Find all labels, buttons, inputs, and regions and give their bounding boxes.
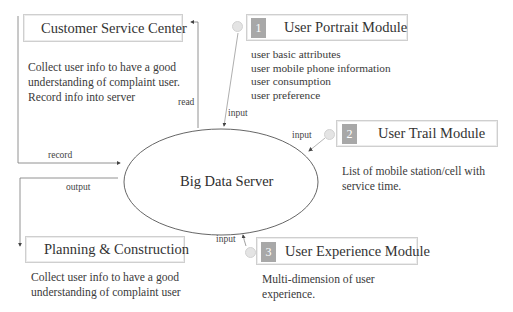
module-3-number-badge: 3: [261, 242, 276, 262]
module-2-number-badge: 2: [342, 124, 357, 144]
user-experience-module-description: Multi-dimension of user experience.: [262, 272, 375, 302]
planning-construction-box: Planning & Construction: [25, 236, 185, 263]
planning-construction-description: Collect user info to have a good underst…: [31, 270, 181, 300]
output-label: output: [66, 182, 90, 192]
user-trail-module-description: List of mobile station/cell with service…: [342, 164, 485, 194]
read-arrow: [191, 22, 198, 128]
input-1-label: input: [228, 108, 248, 118]
module-1-connector-dot: [232, 21, 243, 32]
description-line: understanding of complaint user: [31, 285, 181, 300]
description-line: understanding of complaint user.: [28, 75, 180, 90]
description-line: user consumption: [251, 75, 391, 89]
read-label: read: [178, 97, 194, 107]
planning-construction-title: Planning & Construction: [44, 241, 189, 258]
description-line: Multi-dimension of user: [262, 272, 375, 287]
user-trail-module-title: User Trail Module: [378, 125, 485, 142]
connector-lines: [0, 0, 513, 312]
user-experience-module-box: 3 User Experience Module: [256, 237, 418, 265]
description-line: experience.: [262, 287, 375, 302]
description-line: service time.: [342, 179, 485, 194]
description-line: user basic attributes: [251, 48, 391, 62]
user-experience-module-title: User Experience Module: [285, 243, 430, 260]
user-portrait-module-description: user basic attributes user mobile phone …: [251, 48, 391, 102]
description-line: Record info into server: [28, 90, 180, 105]
description-line: List of mobile station/cell with: [342, 164, 485, 179]
module-2-connector-dot: [324, 129, 335, 140]
input-2-label: input: [292, 130, 312, 140]
user-portrait-module-title: User Portrait Module: [284, 19, 407, 36]
description-line: user mobile phone information: [251, 62, 391, 76]
customer-service-center-title: Customer Service Center: [41, 20, 187, 37]
module-1-number-badge: 1: [251, 18, 266, 38]
input-3-label: input: [216, 234, 236, 244]
customer-service-center-box: Customer Service Center: [23, 14, 183, 42]
description-line: user preference: [251, 89, 391, 103]
record-label: record: [48, 150, 72, 160]
user-portrait-module-box: 1 User Portrait Module: [246, 14, 408, 41]
big-data-server-label: Big Data Server: [180, 173, 273, 190]
user-trail-module-box: 2 User Trail Module: [336, 120, 498, 147]
customer-service-center-description: Collect user info to have a good underst…: [28, 60, 180, 105]
module-3-connector-dot: [245, 247, 256, 258]
description-line: Collect user info to have a good: [28, 60, 180, 75]
description-line: Collect user info to have a good: [31, 270, 181, 285]
input-3-arrow: [243, 235, 246, 246]
